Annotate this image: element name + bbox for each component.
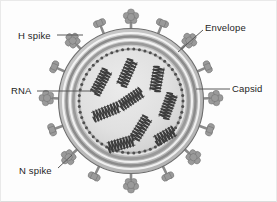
label-h-spike: H spike — [18, 31, 51, 41]
virus-diagram-figure: H spike RNA N spike Envelope Capsid — [0, 0, 277, 202]
label-envelope: Envelope — [205, 23, 246, 33]
label-rna: RNA — [11, 86, 32, 96]
label-capsid: Capsid — [232, 84, 262, 94]
label-n-spike: N spike — [19, 166, 52, 176]
